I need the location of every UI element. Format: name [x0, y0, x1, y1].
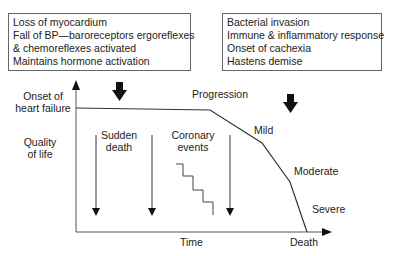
severe-label: Severe [312, 203, 345, 215]
bold-down-arrow-icon [112, 82, 127, 101]
diagram-graphics [0, 0, 393, 256]
arrow-head-icon [226, 208, 234, 216]
death-label: Death [290, 236, 318, 248]
time-label: Time [180, 236, 203, 248]
quality-label: Quality of life [18, 136, 62, 160]
mild-label: Mild [254, 124, 273, 136]
moderate-label: Moderate [294, 165, 338, 177]
x-axis-arrow-icon [322, 228, 332, 236]
onset-label: Onset of heart failure [12, 90, 74, 114]
coronary-staircase [176, 164, 213, 215]
progression-label: Progression [192, 88, 248, 100]
arrow-head-icon [92, 208, 100, 216]
coronary-events-label: Coronary events [165, 129, 221, 153]
bold-down-arrow-icon [283, 94, 298, 113]
arrow-head-icon [148, 208, 156, 216]
sudden-death-label: Sudden death [98, 129, 140, 153]
y-axis-arrow-icon [72, 80, 80, 90]
